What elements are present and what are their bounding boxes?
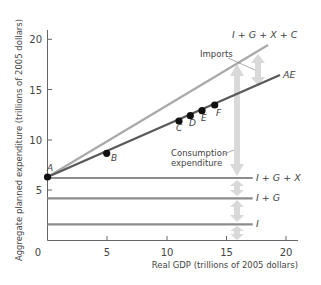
x-axis-label: Real GDP (trillions of 2005 dollars) — [152, 260, 298, 270]
y-tick-15: 15 — [29, 85, 42, 96]
x-tick-15: 15 — [220, 247, 233, 258]
y-tick-5: 5 — [36, 185, 42, 196]
point-label-c: C — [176, 123, 183, 133]
x-tick-5: 5 — [104, 247, 110, 258]
label-igx: I + G + X — [256, 172, 301, 183]
exports-arrow — [230, 180, 244, 196]
label-igxc: I + G + X + C — [232, 29, 298, 40]
x-tick-10: 10 — [161, 247, 174, 258]
government-arrow — [230, 200, 244, 222]
point-b — [103, 150, 110, 157]
consumption-note-line2: expenditure — [171, 158, 222, 168]
line-ae — [48, 75, 281, 177]
consumption-note-line1: Consumption — [171, 148, 227, 158]
label-ig: I + G — [256, 192, 280, 203]
point-a — [44, 173, 51, 180]
label-ae: AE — [282, 69, 296, 80]
point-label-a: A — [46, 163, 53, 173]
investment-arrow — [230, 226, 244, 240]
imports-note: Imports — [200, 49, 233, 59]
aggregate-expenditure-chart: 0 5 10 15 20 5 10 15 20 Real GDP (trilli… — [0, 0, 321, 285]
y-axis-label: Aggregate planned expenditure (trillions… — [14, 19, 24, 261]
consumption-arrow — [230, 64, 244, 176]
point-label-d: D — [189, 118, 196, 128]
point-label-b: B — [111, 153, 117, 163]
point-label-e: E — [201, 113, 207, 123]
x-tick-0: 0 — [35, 247, 41, 258]
x-tick-20: 20 — [280, 247, 293, 258]
y-tick-20: 20 — [29, 34, 42, 45]
label-i: I — [256, 218, 259, 229]
point-label-f: F — [216, 108, 222, 118]
gap-arrows — [230, 54, 265, 240]
y-tick-10: 10 — [29, 135, 42, 146]
